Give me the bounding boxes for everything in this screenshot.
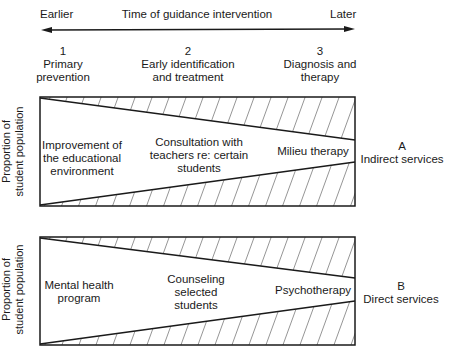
panel-a-side-label: A Indirect services bbox=[360, 140, 443, 166]
panel-a-col3-text: Milieu therapy bbox=[277, 145, 349, 158]
timeline-later-label: Later bbox=[330, 8, 356, 21]
panel-b-side-label: B Direct services bbox=[363, 280, 438, 306]
timeline-title: Time of guidance intervention bbox=[122, 8, 272, 21]
panel-b-col3-text: Psychotherapy bbox=[275, 284, 351, 297]
panel-a-y-axis-label: Proportion of student population bbox=[0, 102, 25, 202]
timeline-earlier-label: Earlier bbox=[40, 8, 73, 21]
panel-b-y-axis-label: Proportion of student population bbox=[0, 240, 25, 340]
panel-a-col2-text: Consultation with teachers re: certain s… bbox=[150, 136, 248, 175]
panel-a-col1-text: Improvement of the educational environme… bbox=[42, 139, 122, 178]
stage-3-header: 3 Diagnosis and therapy bbox=[284, 45, 357, 84]
panel-b-col2-text: Counseling selected students bbox=[167, 273, 225, 312]
stage-1-header: 1 Primary prevention bbox=[36, 45, 90, 84]
timeline-arrow bbox=[41, 26, 355, 33]
panel-b-col1-text: Mental health program bbox=[44, 279, 113, 305]
stage-2-header: 2 Early identification and treatment bbox=[141, 45, 234, 84]
